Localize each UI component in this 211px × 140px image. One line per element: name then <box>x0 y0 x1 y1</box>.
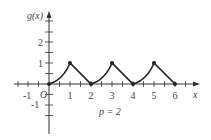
x-tick-label: 2 <box>89 90 94 101</box>
x-tick-label: 3 <box>110 90 115 101</box>
chart: g(x) x O -1 1 2 3 4 5 6 -1 1 2 p = 2 <box>0 0 211 140</box>
point <box>173 82 177 86</box>
point <box>68 61 72 65</box>
point <box>131 82 135 86</box>
x-axis-label: x <box>192 89 198 100</box>
y-axis-label: g(x) <box>27 10 44 22</box>
origin-label: O <box>40 89 47 100</box>
x-axis-arrow-icon <box>193 82 200 87</box>
y-tick-label: 2 <box>38 37 43 48</box>
g-curve <box>49 63 175 84</box>
y-axis-arrow-icon <box>47 11 52 18</box>
x-tick-label: 1 <box>68 90 73 101</box>
point <box>89 82 93 86</box>
point <box>110 61 114 65</box>
y-tick-label: -1 <box>31 99 39 110</box>
point <box>152 61 156 65</box>
x-tick-label: 6 <box>173 90 178 101</box>
x-tick-label: 5 <box>152 90 157 101</box>
point <box>47 82 51 86</box>
x-tick-label: 4 <box>131 90 136 101</box>
y-tick-label: 1 <box>38 58 43 69</box>
period-annotation: p = 2 <box>98 106 121 117</box>
